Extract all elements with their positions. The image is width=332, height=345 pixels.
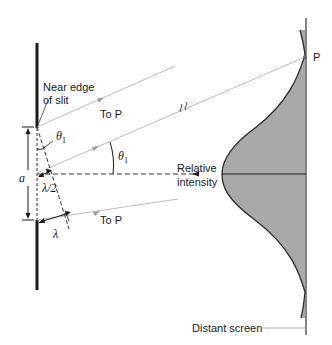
relative-intensity-label-line2: intensity <box>177 176 218 188</box>
diffraction-diagram: Near edge of slit To P To P θ1 θ1 a λ/2 … <box>0 0 332 345</box>
theta-big-label: θ1 <box>118 149 128 165</box>
half-wavelength-label: λ/2 <box>41 181 57 195</box>
ray-top-arrow-icon <box>97 98 104 103</box>
slit-width-arrow-down-icon <box>26 213 31 219</box>
distant-screen-label: Distant screen <box>192 322 262 334</box>
theta-small-leader <box>45 141 53 147</box>
point-p-label: P <box>313 51 320 63</box>
wavelength-label: λ <box>52 227 58 241</box>
ray-middle-arrow-icon <box>92 146 99 151</box>
to-p-bottom-label: To P <box>100 214 122 226</box>
slit-width-label: a <box>19 171 25 185</box>
relative-intensity-label-line1: Relative <box>177 162 217 174</box>
near-edge-label-line2: of slit <box>43 94 69 106</box>
to-p-top-label: To P <box>100 108 122 120</box>
wavelength-arrowhead-left-icon <box>38 218 45 223</box>
point-p-marker <box>303 55 307 59</box>
theta-small-label: θ1 <box>56 129 66 145</box>
theta-big-arc <box>110 142 114 174</box>
slit-width-arrow-up-icon <box>26 128 31 134</box>
near-edge-label-line1: Near edge <box>43 81 94 93</box>
